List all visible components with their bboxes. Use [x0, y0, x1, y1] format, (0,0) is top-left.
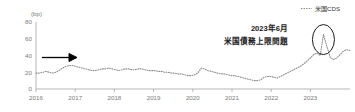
spike-highlight-ellipse	[312, 25, 334, 55]
series-line-us-cds	[36, 35, 350, 81]
annotation-line-2: 米国債務上限問題	[224, 36, 288, 46]
y-tick-label-80: 80	[25, 18, 32, 25]
y-tick-label-20: 20	[25, 69, 32, 76]
x-tick-label-2016: 2016	[29, 94, 43, 101]
annotation-line-1: 2023年6月	[251, 23, 288, 33]
x-tick-label-2018: 2018	[108, 94, 122, 101]
x-tick-label-2023: 2023	[304, 94, 318, 101]
debt-ceiling-annotation: 2023年6月 米国債務上限問題	[224, 23, 288, 46]
x-tick-label-2017: 2017	[68, 94, 82, 101]
x-tick-label-2020: 2020	[186, 94, 200, 101]
x-tick-label-2021: 2021	[225, 94, 239, 101]
x-tick-label-2022: 2022	[264, 94, 278, 101]
us-cds-line-chart: (bp) 80 60 40 20 0 2016 2017 2018 2019 2…	[0, 0, 355, 112]
trend-arrow-icon	[42, 54, 77, 62]
legend-label-us-cds: 米国CDS	[315, 5, 340, 13]
y-tick-label-40: 40	[25, 52, 32, 59]
chart-container: (bp) 80 60 40 20 0 2016 2017 2018 2019 2…	[0, 0, 355, 112]
y-tick-label-0: 0	[29, 85, 33, 92]
y-axis-unit-label: (bp)	[31, 10, 42, 17]
y-tick-label-60: 60	[25, 35, 32, 42]
trend-arrow-head	[69, 54, 77, 62]
x-tick-label-2019: 2019	[147, 94, 161, 101]
legend: 米国CDS	[301, 5, 340, 13]
